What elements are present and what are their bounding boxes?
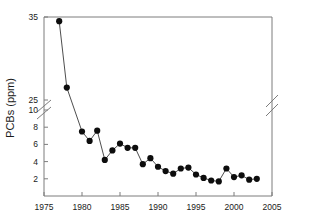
y-tick-label: 35	[29, 12, 39, 22]
data-point	[231, 174, 237, 180]
x-tick-label: 1990	[149, 202, 168, 212]
y-axis-ticks: 2468102535	[29, 12, 48, 184]
data-point	[193, 171, 199, 177]
data-point	[140, 161, 146, 167]
pcb-time-series-chart: 24681025351975198019851990199520002005PC…	[0, 0, 312, 220]
data-point	[216, 178, 222, 184]
data-point	[201, 175, 207, 181]
y-tick-label: 10	[29, 105, 39, 115]
data-point	[117, 140, 123, 146]
series-polyline	[59, 21, 257, 181]
data-point	[147, 155, 153, 161]
y-axis-title: PCBs (ppm)	[4, 78, 16, 138]
data-point	[87, 138, 93, 144]
data-point	[223, 165, 229, 171]
data-point	[94, 128, 100, 134]
x-tick-label: 2000	[225, 202, 244, 212]
data-point	[163, 168, 169, 174]
data-point	[239, 172, 245, 178]
x-axis-ticks: 1975198019851990199520002005	[35, 192, 282, 212]
data-point	[125, 145, 131, 151]
data-point	[246, 177, 252, 183]
data-point	[178, 165, 184, 171]
data-point	[64, 84, 70, 90]
x-tick-label: 1980	[73, 202, 92, 212]
data-point	[254, 176, 260, 182]
y-tick-label: 6	[33, 139, 38, 149]
data-point	[79, 128, 85, 134]
x-tick-label: 1975	[35, 202, 54, 212]
series-1	[56, 18, 260, 184]
data-point	[170, 171, 176, 177]
y-tick-label: 2	[33, 174, 38, 184]
data-point	[185, 165, 191, 171]
chart-canvas: 24681025351975198019851990199520002005PC…	[0, 0, 312, 220]
x-tick-label: 1995	[187, 202, 206, 212]
data-point	[109, 147, 115, 153]
x-tick-label: 1985	[111, 202, 130, 212]
y-tick-label: 8	[33, 122, 38, 132]
data-point	[155, 164, 161, 170]
x-tick-label: 2005	[263, 202, 282, 212]
data-point	[102, 157, 108, 163]
data-point	[132, 145, 138, 151]
y-tick-label: 4	[33, 157, 38, 167]
y-tick-label: 25	[29, 95, 39, 105]
data-point	[208, 177, 214, 183]
data-point	[56, 18, 62, 24]
